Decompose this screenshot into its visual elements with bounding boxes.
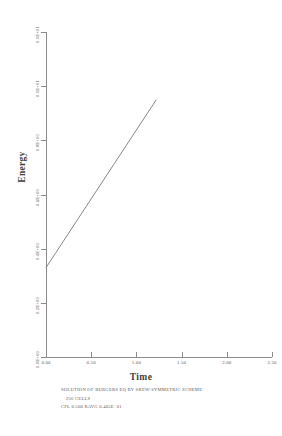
y-axis-title: Energy xyxy=(17,151,27,182)
energy-vs-time-plot: 0.0E+000.2E+000.4E+000.6E+000.8E+000.1E+… xyxy=(0,0,282,436)
data-series-line xyxy=(0,0,282,436)
caption-line-params: CFL 0.500 RAVG 0.405E+01 xyxy=(0,403,282,412)
caption-line-cells: 256 CELLS xyxy=(0,395,282,404)
x-axis-title: Time xyxy=(0,372,282,382)
caption-line-title: SOLUTION OF BURGERS EQ BY SKEW-SYMMETRIC… xyxy=(0,386,282,395)
figure-caption: SOLUTION OF BURGERS EQ BY SKEW-SYMMETRIC… xyxy=(0,386,282,412)
